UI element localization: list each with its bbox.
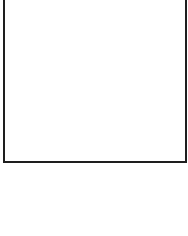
screen (0, 0, 188, 236)
blank-area (0, 166, 188, 236)
empty-panel (3, 0, 187, 163)
panel-content (5, 0, 185, 161)
